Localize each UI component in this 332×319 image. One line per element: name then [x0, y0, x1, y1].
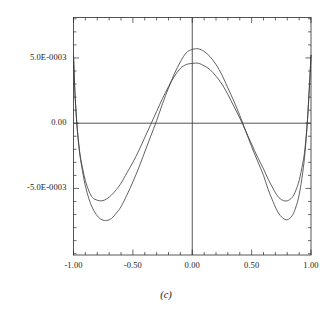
- x-tick-label-zero: 0.00: [167, 260, 217, 270]
- x-tick-label-one: 1.00: [286, 260, 332, 270]
- x-tick-label-neg-one: -1.00: [49, 260, 99, 270]
- x-tick-label-neg-half: -0.50: [108, 260, 158, 270]
- chart-canvas: [0, 0, 332, 319]
- y-tick-label-negative: -5.0E-0003: [0, 182, 67, 192]
- figure-caption: (c): [0, 289, 332, 300]
- y-tick-label-positive: 5.0E-0003: [0, 52, 67, 62]
- y-tick-label-zero: 0.00: [0, 117, 67, 127]
- figure-panel-c: 5.0E-0003 0.00 -5.0E-0003 -1.00 -0.50 0.…: [0, 0, 332, 319]
- x-tick-label-half: 0.50: [227, 260, 277, 270]
